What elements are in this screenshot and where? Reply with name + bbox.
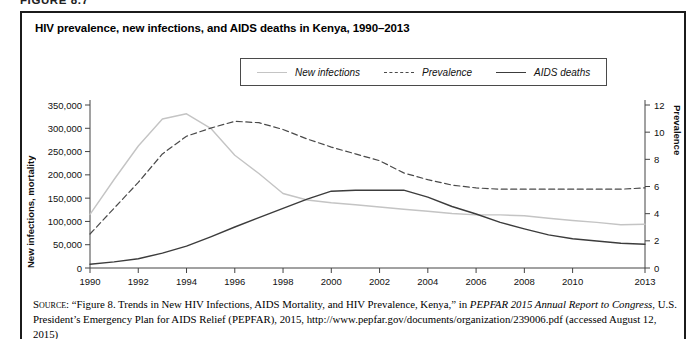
- svg-text:12: 12: [654, 100, 665, 111]
- svg-text:50,000: 50,000: [53, 239, 82, 250]
- y-axis-label-left: New infections, mortality: [25, 105, 36, 268]
- legend-label: AIDS deaths: [534, 67, 590, 78]
- svg-text:2004: 2004: [417, 276, 438, 287]
- svg-text:1990: 1990: [79, 276, 100, 287]
- figure-number-label: FIGURE 8.7: [20, 0, 200, 7]
- svg-text:2002: 2002: [369, 276, 390, 287]
- svg-text:2010: 2010: [562, 276, 583, 287]
- svg-text:100,000: 100,000: [48, 216, 82, 227]
- svg-text:150,000: 150,000: [48, 193, 82, 204]
- svg-text:0: 0: [77, 263, 82, 274]
- legend-item-aids-deaths: AIDS deaths: [496, 67, 590, 78]
- svg-text:0: 0: [654, 263, 659, 274]
- line-chart: 050,000100,000150,000200,000250,000300,0…: [24, 98, 686, 294]
- svg-text:1994: 1994: [176, 276, 197, 287]
- legend-label: New infections: [295, 67, 360, 78]
- source-text: “Figure 8. Trends in New HIV Infections,…: [69, 298, 470, 310]
- chart-legend: New infections Prevalence AIDS deaths: [240, 58, 607, 86]
- svg-text:200,000: 200,000: [48, 169, 82, 180]
- svg-text:300,000: 300,000: [48, 123, 82, 134]
- svg-text:10: 10: [654, 127, 665, 138]
- svg-text:1998: 1998: [272, 276, 293, 287]
- svg-text:2006: 2006: [466, 276, 487, 287]
- svg-text:2000: 2000: [321, 276, 342, 287]
- source-citation: Source: “Figure 8. Trends in New HIV Inf…: [33, 297, 681, 339]
- legend-label: Prevalence: [422, 67, 472, 78]
- svg-text:2013: 2013: [634, 276, 655, 287]
- chart-title: HIV prevalence, new infections, and AIDS…: [35, 22, 409, 34]
- svg-text:2: 2: [654, 235, 659, 246]
- svg-text:4: 4: [654, 208, 659, 219]
- svg-text:6: 6: [654, 181, 659, 192]
- aids-deaths-line-sample: [496, 72, 526, 73]
- svg-text:1992: 1992: [128, 276, 149, 287]
- chart-plot-area: New infections, mortality 050,000100,000…: [24, 98, 686, 298]
- svg-text:1996: 1996: [224, 276, 245, 287]
- svg-text:250,000: 250,000: [48, 146, 82, 157]
- y-axis-label-right: Prevalence: [672, 105, 683, 268]
- source-publication-title: PEPFAR 2015 Annual Report to Congress: [470, 298, 652, 310]
- new-infections-line-sample: [257, 72, 287, 73]
- svg-text:8: 8: [654, 154, 659, 165]
- svg-text:350,000: 350,000: [48, 100, 82, 111]
- legend-item-prevalence: Prevalence: [384, 67, 472, 78]
- prevalence-line-sample: [384, 72, 414, 73]
- figure-panel: HIV prevalence, new infections, and AIDS…: [20, 11, 686, 339]
- source-label: Source:: [33, 298, 69, 310]
- svg-text:2008: 2008: [514, 276, 535, 287]
- legend-item-new-infections: New infections: [257, 67, 360, 78]
